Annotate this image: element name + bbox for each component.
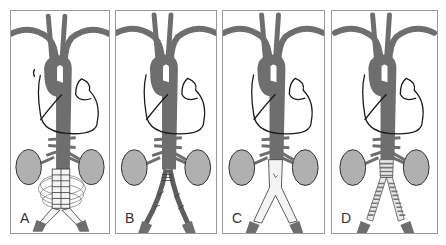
kidney-right xyxy=(79,149,104,184)
panel-b: B xyxy=(115,10,217,234)
panel-label-d: D xyxy=(341,211,351,225)
panel-label-b: B xyxy=(125,211,134,225)
anatomy-illustration-c xyxy=(223,11,324,233)
anatomy-illustration-a xyxy=(11,11,109,233)
panel-label-c: C xyxy=(232,211,242,225)
aortic-repair-figure: A xyxy=(0,0,446,245)
panel-a: A xyxy=(10,10,110,234)
anatomy-illustration-b xyxy=(116,11,216,233)
anatomy-illustration-d xyxy=(332,11,437,233)
panel-d: D xyxy=(331,10,438,234)
kidney-left xyxy=(16,149,41,184)
bifurcated-graft xyxy=(254,160,298,223)
graft-rings xyxy=(368,164,406,216)
panel-label-a: A xyxy=(20,211,29,225)
panel-c: C xyxy=(222,10,325,234)
